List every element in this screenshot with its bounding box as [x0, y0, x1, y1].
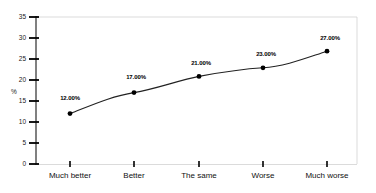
y-tick-label-15: 15: [8, 98, 26, 105]
y-tick-label-20: 20: [8, 77, 26, 84]
x-axis-ticks: [70, 161, 327, 167]
x-tick-label-much-better: Much better: [49, 172, 91, 180]
y-tick-label-25: 25: [8, 56, 26, 63]
data-label-worse: 23.00%: [256, 51, 276, 57]
y-tick-label-30: 30: [8, 35, 26, 42]
line-chart: % 35 30 25 20 15 10 5 0 Much better Bett…: [0, 0, 376, 193]
y-tick-label-10: 10: [8, 119, 26, 126]
data-label-much-better: 12.00%: [60, 95, 80, 101]
y-tick-label-35: 35: [8, 14, 26, 21]
series-markers: [68, 49, 330, 116]
y-axis-title: %: [11, 89, 17, 96]
x-tick-label-much-worse: Much worse: [305, 172, 348, 180]
y-tick-label-5: 5: [8, 140, 26, 147]
data-label-the-same: 21.00%: [191, 60, 211, 66]
data-label-better: 17.00%: [126, 74, 146, 80]
x-tick-label-the-same: The same: [181, 172, 217, 180]
data-label-much-worse: 27.00%: [320, 35, 340, 41]
y-tick-label-0: 0: [8, 161, 26, 168]
chart-canvas: [0, 0, 376, 193]
y-axis-ticks: [29, 17, 39, 164]
x-tick-label-worse: Worse: [252, 172, 275, 180]
x-tick-label-better: Better: [123, 172, 144, 180]
